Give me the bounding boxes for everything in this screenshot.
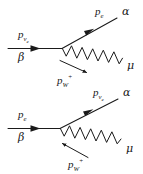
bottom-w-momentum-label: pW+ xyxy=(68,158,83,173)
bottom-w-boson-wavy-line xyxy=(61,126,122,144)
top-outgoing-alpha-label: α xyxy=(122,6,129,17)
bottom-outgoing-alpha-label: α xyxy=(123,87,130,98)
bottom-incoming-momentum-label: pe xyxy=(18,109,27,125)
top-outgoing-fermion-line xyxy=(62,18,117,49)
top-w-boson-wavy-line xyxy=(63,46,123,64)
bottom-muon-label: μ xyxy=(126,143,133,154)
bottom-diagram-group xyxy=(8,99,121,158)
top-w-momentum-arrow xyxy=(60,61,87,73)
top-w-momentum-label: pW+ xyxy=(57,74,72,89)
feynman-diagram-figure: pνe β pe α μ pW+ pe β pνe α μ pW+ xyxy=(0,0,143,174)
top-incoming-beta-label: β xyxy=(18,52,24,63)
bottom-w-momentum-arrow xyxy=(63,144,89,158)
bottom-outgoing-fermion-line xyxy=(60,99,118,129)
top-outgoing-momentum-label: pe xyxy=(95,6,104,20)
top-incoming-arrowhead xyxy=(31,45,41,51)
top-incoming-momentum-label: pνe xyxy=(18,29,29,45)
bottom-outgoing-momentum-label: pνe xyxy=(93,87,104,103)
bottom-incoming-arrowhead xyxy=(31,125,41,131)
bottom-incoming-beta-label: β xyxy=(18,132,24,143)
top-muon-label: μ xyxy=(127,60,134,71)
